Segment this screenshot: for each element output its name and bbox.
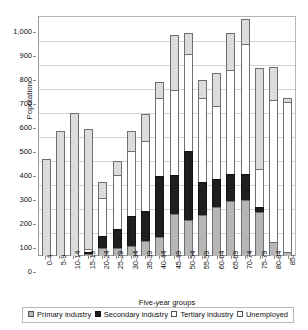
x-axis-tick: 65-69 — [224, 256, 238, 300]
y-axis-tick-mark — [33, 224, 36, 225]
x-axis-tick: 85- — [282, 256, 296, 300]
primary-swatch-icon — [28, 311, 34, 317]
bar-segment — [241, 19, 250, 45]
bar-stack — [70, 113, 79, 255]
y-axis-tick-label: 900 — [0, 52, 32, 60]
x-axis-tick: 25-29 — [110, 256, 124, 300]
y-axis-tick-label: 400 — [0, 172, 32, 180]
x-axis-tick: 75-79 — [253, 256, 267, 300]
y-axis-tick-mark — [33, 200, 36, 201]
bar-stack — [155, 82, 164, 255]
bar-column — [153, 17, 167, 255]
bar-stack — [98, 182, 107, 255]
bar-segment — [170, 90, 179, 176]
bar-segment — [226, 33, 235, 70]
legend-label: Unemployed — [246, 310, 288, 319]
bar-column — [281, 17, 295, 255]
bar-segment — [241, 200, 250, 256]
y-axis-tick-mark — [33, 152, 36, 153]
x-axis-tick: 10-14 — [67, 256, 81, 300]
x-axis-tick: 50-54 — [181, 256, 195, 300]
y-axis-tick-label: 800 — [0, 76, 32, 84]
y-axis-tick-label: 200 — [0, 220, 32, 228]
bar-segment — [269, 100, 278, 243]
bar-segment — [56, 131, 65, 256]
bar-column — [238, 17, 252, 255]
y-axis-tick-mark — [33, 128, 36, 129]
y-axis-tick-label: 600 — [0, 124, 32, 132]
bar-segment — [42, 159, 51, 256]
bar-column — [181, 17, 195, 255]
bar-column — [124, 17, 138, 255]
bar-segment — [141, 114, 150, 142]
bar-segment — [141, 211, 150, 242]
x-axis-tick: 40-44 — [153, 256, 167, 300]
y-axis-tick-mark — [33, 272, 36, 273]
bar-column — [82, 17, 96, 255]
bar-segment — [198, 98, 207, 183]
bar-segment — [212, 73, 221, 107]
bar-segment — [84, 129, 93, 250]
y-axis-tick-mark — [33, 104, 36, 105]
x-axis-tick: 35-39 — [138, 256, 152, 300]
bar-stack — [283, 98, 292, 255]
y-axis-tick-label: 500 — [0, 148, 32, 156]
bar-segment — [226, 201, 235, 256]
legend-label: Tertiary industry — [180, 310, 233, 319]
chart-legend: Primary industrySecondary industryTertia… — [22, 307, 294, 323]
legend-item[interactable]: Unemployed — [237, 310, 288, 319]
bar-column — [252, 17, 266, 255]
bar-segment — [198, 182, 207, 216]
bar-segment — [184, 54, 193, 152]
x-axis-tick: 5-9 — [52, 256, 66, 300]
bar-stack — [141, 114, 150, 255]
bar-segment — [113, 175, 122, 230]
bar-segment — [155, 82, 164, 99]
bar-segment — [184, 151, 193, 221]
y-axis-tick-labels: 1,0009008007006005004003002001000 — [0, 16, 36, 256]
bar-stack — [269, 67, 278, 255]
legend-item[interactable]: Tertiary industry — [171, 310, 233, 319]
bar-column — [53, 17, 67, 255]
stacked-bar-chart: Population 1,000900800700600500400300200… — [0, 0, 308, 330]
x-axis-tick: 20-24 — [95, 256, 109, 300]
bar-column — [195, 17, 209, 255]
x-axis-tick: 0-4 — [38, 256, 52, 300]
x-axis-tick-label: 85- — [289, 255, 298, 266]
bar-segment — [226, 174, 235, 202]
bar-segment — [212, 207, 221, 256]
x-axis-tick: 80-84 — [267, 256, 281, 300]
bar-segment — [283, 102, 292, 253]
secondary-swatch-icon — [95, 311, 101, 317]
x-axis-tick: 30-34 — [124, 256, 138, 300]
bar-segment — [113, 161, 122, 177]
bar-stack — [42, 159, 51, 255]
legend-item[interactable]: Secondary industry — [95, 310, 168, 319]
tertiary-swatch-icon — [171, 311, 177, 317]
bar-segment — [241, 44, 250, 175]
bar-segment — [98, 182, 107, 198]
bar-segment — [269, 67, 278, 101]
bar-stack — [198, 80, 207, 255]
bar-segment — [70, 113, 79, 256]
bar-column — [39, 17, 53, 255]
bar-stack — [226, 33, 235, 255]
x-axis-tick: 60-64 — [210, 256, 224, 300]
bar-column — [167, 17, 181, 255]
bar-segment — [212, 179, 221, 208]
x-axis-tick: 70-74 — [239, 256, 253, 300]
bar-segment — [184, 33, 193, 55]
bar-segment — [155, 98, 164, 177]
bar-column — [67, 17, 81, 255]
bar-stack — [170, 35, 179, 255]
legend-label: Secondary industry — [104, 310, 168, 319]
bar-segment — [141, 141, 150, 213]
bar-segment — [241, 174, 250, 200]
x-axis-title: Five-year groups — [38, 298, 296, 307]
y-axis-tick-mark — [33, 248, 36, 249]
bar-segment — [127, 131, 136, 152]
bar-segment — [198, 80, 207, 99]
plot-area — [38, 16, 296, 256]
bar-column — [96, 17, 110, 255]
legend-item[interactable]: Primary industry — [28, 310, 91, 319]
